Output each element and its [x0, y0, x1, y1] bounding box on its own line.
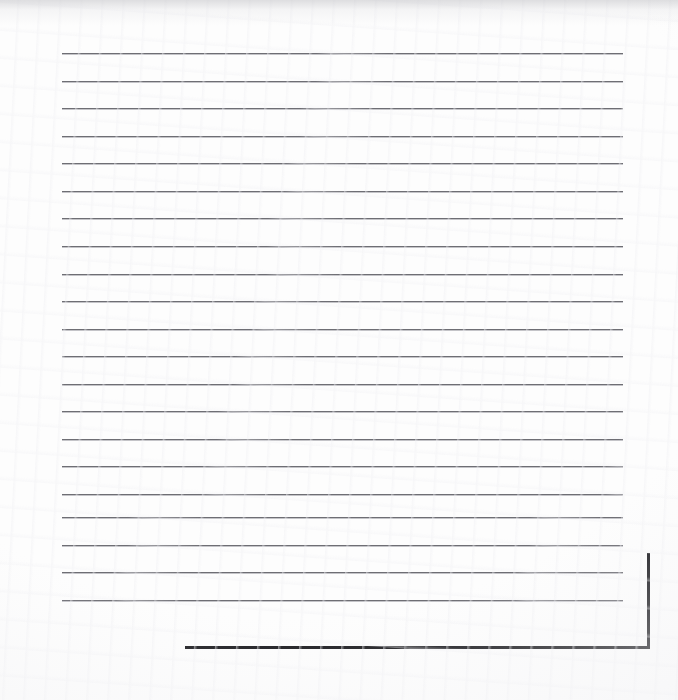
- page-edge-right-border: [647, 553, 650, 648]
- page-edge-border-group: [0, 0, 678, 700]
- page-edge-bottom-border: [185, 646, 650, 649]
- scanned-page: [0, 0, 678, 700]
